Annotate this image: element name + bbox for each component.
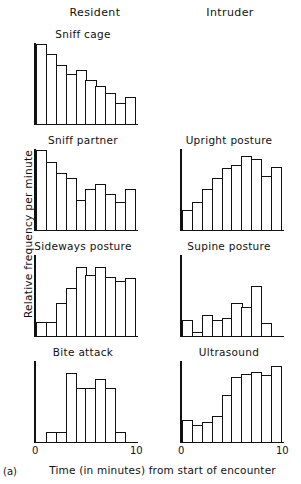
plot-area: 0 10: [180, 361, 284, 443]
x-axis-line: [180, 230, 284, 232]
figure-panel-grid: Resident Intruder Relative frequency per…: [0, 0, 301, 484]
plot-area: [34, 149, 138, 231]
histogram-bar: [261, 323, 272, 336]
bar-series: [182, 150, 282, 230]
panel-title: Sideways posture: [26, 240, 140, 252]
panel-title: Sniff partner: [26, 134, 140, 146]
panel-title: Ultrasound: [172, 346, 286, 358]
histogram-bar: [125, 97, 136, 123]
x-axis-line: [180, 336, 284, 338]
column-header-resident: Resident: [40, 6, 150, 19]
x-tick-max: 10: [130, 445, 143, 456]
bar-series: [36, 44, 136, 124]
bar-series: [36, 256, 136, 336]
column-header-intruder: Intruder: [175, 6, 285, 19]
plot-area: [180, 255, 284, 337]
x-axis-line: [34, 442, 138, 444]
plot-area: [180, 149, 284, 231]
x-axis-line: [34, 124, 138, 126]
histogram-bar: [125, 278, 136, 336]
x-tick-min: 0: [32, 445, 38, 456]
figure-tag: (a): [3, 466, 17, 477]
panel-sniff-cage: Sniff cage: [26, 28, 140, 126]
panel-sniff-partner: Sniff partner: [26, 134, 140, 232]
bar-series: [182, 256, 282, 336]
plot-area: 0 10: [34, 361, 138, 443]
x-axis-label: Time (in minutes) from start of encounte…: [30, 464, 295, 476]
panel-title: Sniff cage: [26, 28, 140, 40]
histogram-bar: [125, 189, 136, 230]
x-axis-line: [34, 230, 138, 232]
plot-area: [34, 43, 138, 125]
bar-series: [36, 150, 136, 230]
histogram-bar: [271, 167, 282, 229]
histogram-bar: [271, 366, 282, 441]
x-tick-max: 10: [276, 445, 289, 456]
panel-title: Bite attack: [26, 346, 140, 358]
x-axis-line: [34, 336, 138, 338]
panel-supine-posture: Supine posture: [172, 240, 286, 338]
x-axis-line: [180, 442, 284, 444]
histogram-bar: [115, 432, 126, 442]
panel-sideways-posture: Sideways posture: [26, 240, 140, 338]
plot-area: [34, 255, 138, 337]
panel-title: Supine posture: [172, 240, 286, 252]
x-tick-min: 0: [178, 445, 184, 456]
bar-series: [182, 362, 282, 442]
bar-series: [36, 362, 136, 442]
panel-upright-posture: Upright posture: [172, 134, 286, 232]
panel-ultrasound: Ultrasound 0 10: [172, 346, 286, 444]
panel-bite-attack: Bite attack 0 10: [26, 346, 140, 444]
panel-title: Upright posture: [172, 134, 286, 146]
